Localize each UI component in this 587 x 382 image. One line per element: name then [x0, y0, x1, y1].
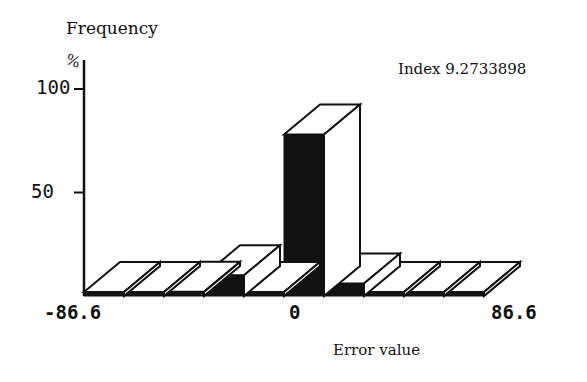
y-axis-label: Frequency — [66, 18, 158, 38]
index-annotation: Index 9.2733898 — [398, 60, 526, 78]
histogram-plot — [0, 0, 587, 382]
y-tick-100: 100 — [36, 76, 70, 98]
x-tick-max: 86.6 — [491, 301, 537, 323]
x-axis-label: Error value — [333, 341, 420, 359]
x-tick-min: -86.6 — [44, 301, 101, 323]
x-tick-zero: 0 — [289, 301, 300, 323]
y-tick-50: 50 — [31, 180, 54, 202]
